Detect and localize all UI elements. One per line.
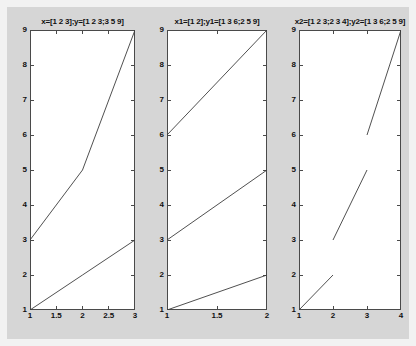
plot-title: x1=[1 2];y1=[1 3 6;2 5 9] [175,17,260,27]
y-tick-label: 7 [23,96,27,104]
y-tick-label: 4 [160,201,164,209]
y-tick-label: 7 [160,96,164,104]
y-tick-label: 1 [160,306,164,314]
y-tick-label: 6 [160,131,164,139]
y-tick-label: 6 [292,131,296,139]
y-tick-label: 4 [292,201,296,209]
y-tick-label: 3 [292,236,296,244]
x-tick-label: 2 [265,312,269,320]
y-tick-label: 3 [23,236,27,244]
figure-canvas: x=[1 2 3];y=[1 2 3;3 5 9]12345678911.522… [7,7,409,339]
data-line-row2 [30,30,135,240]
x-tick-label: 1 [28,312,32,320]
x-tick-label: 2.5 [103,312,114,320]
plot-title: x=[1 2 3];y=[1 2 3;3 5 9] [41,17,124,27]
y-tick-label: 5 [23,166,27,174]
plot-title: x2=[1 2 3;2 3 4];y2=[1 3 6;2 5 9] [295,17,405,27]
y-tick-label: 1 [292,306,296,314]
y-tick-label: 8 [23,61,27,69]
subplot-1[interactable]: x=[1 2 3];y=[1 2 3;3 5 9]12345678911.522… [30,30,135,310]
y-tick-label: 2 [292,271,296,279]
data-line-col2 [167,170,267,240]
data-line-seg2 [333,170,367,240]
x-tick-label: 1.5 [51,312,62,320]
y-tick-label: 8 [160,61,164,69]
y-tick-label: 8 [292,61,296,69]
y-tick-label: 9 [292,26,296,34]
plot-canvas [30,30,135,310]
data-line-seg1 [299,275,333,310]
y-tick-label: 7 [292,96,296,104]
subplot-2[interactable]: x1=[1 2];y1=[1 3 6;2 5 9]12345678911.52 [167,30,267,310]
figure-window: x=[1 2 3];y=[1 2 3;3 5 9]12345678911.522… [0,0,416,346]
y-tick-label: 5 [292,166,296,174]
data-line-col3 [167,30,267,135]
data-line-seg3 [367,30,401,135]
y-tick-label: 9 [160,26,164,34]
y-tick-label: 1 [23,306,27,314]
plot-canvas [167,30,267,310]
x-tick-label: 3 [133,312,137,320]
x-tick-label: 1.5 [211,312,222,320]
y-tick-label: 3 [160,236,164,244]
y-tick-label: 6 [23,131,27,139]
data-line-col1 [167,275,267,310]
x-tick-label: 2 [80,312,84,320]
y-tick-label: 9 [23,26,27,34]
x-tick-label: 1 [165,312,169,320]
y-tick-label: 2 [160,271,164,279]
plot-canvas [299,30,401,310]
subplot-3[interactable]: x2=[1 2 3;2 3 4];y2=[1 3 6;2 5 9]1234567… [299,30,401,310]
x-tick-label: 3 [365,312,369,320]
x-tick-label: 2 [331,312,335,320]
y-tick-label: 4 [23,201,27,209]
y-tick-label: 2 [23,271,27,279]
x-tick-label: 1 [297,312,301,320]
y-tick-label: 5 [160,166,164,174]
data-line-row1 [30,240,135,310]
x-tick-label: 4 [399,312,403,320]
